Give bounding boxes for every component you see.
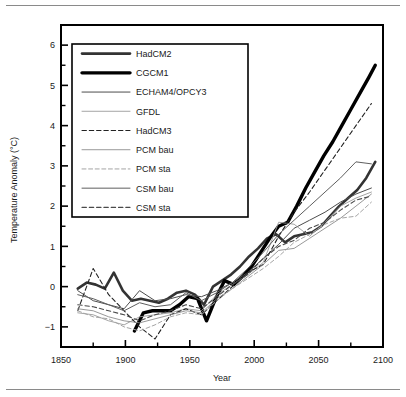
x-axis-label: Year [213,373,231,383]
x-tick-label: 1850 [51,355,71,365]
figure-container: 185019001950200020502100 −10123456 Year … [0,0,406,397]
legend-label-pcm-bau: PCM bau [136,145,174,155]
legend-label-csm-sta: CSM sta [136,203,171,213]
y-axis-ticks [61,25,68,347]
y-axis-tick-labels: −10123456 [45,40,55,332]
y-tick-label: 6 [50,40,55,50]
legend-label-csm-bau: CSM bau [136,184,174,194]
x-tick-label: 2100 [373,355,393,365]
y-tick-label: 1 [50,242,55,252]
y-tick-label: 3 [50,161,55,171]
legend-label-hadcm3: HadCM3 [136,126,172,136]
temperature-anomaly-chart: 185019001950200020502100 −10123456 Year … [0,0,406,397]
y-tick-label: 5 [50,81,55,91]
x-tick-label: 2000 [244,355,264,365]
x-tick-label: 1950 [180,355,200,365]
x-tick-label: 2050 [309,355,329,365]
legend-label-echam4-opcy3: ECHAM4/OPCY3 [136,87,207,97]
y-tick-label: −1 [45,322,55,332]
x-axis-tick-labels: 185019001950200020502100 [51,355,393,365]
legend-label-gfdl: GFDL [136,107,160,117]
y-tick-label: 0 [50,282,55,292]
chart-legend: HadCM2CGCM1ECHAM4/OPCY3GFDLHadCM3PCM bau… [72,44,248,217]
legend-label-hadcm2: HadCM2 [136,49,172,59]
legend-label-pcm-sta: PCM sta [136,164,171,174]
y-axis-label: Temperature Anomaly (°C) [9,137,19,243]
y-tick-label: 4 [50,121,55,131]
x-axis-ticks [61,340,383,347]
y-tick-label: 2 [50,201,55,211]
series-line-pcm-sta [78,202,372,331]
legend-label-cgcm1: CGCM1 [136,68,169,78]
x-tick-label: 1900 [115,355,135,365]
